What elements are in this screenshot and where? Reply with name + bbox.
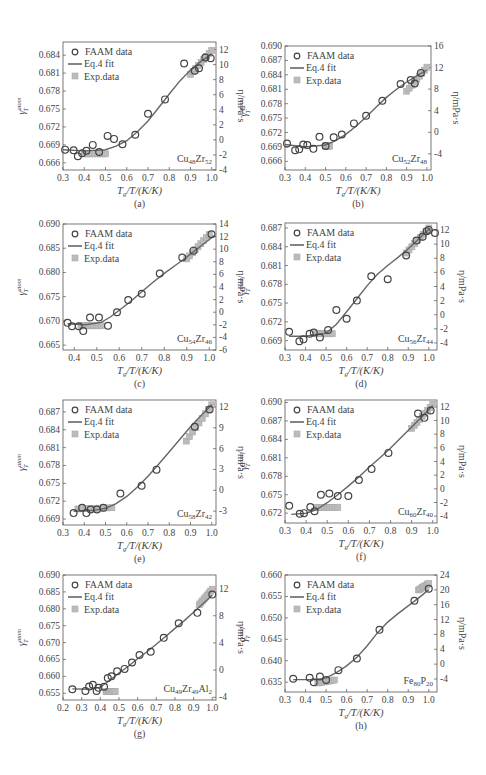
y2-tick-label: 12 xyxy=(219,584,229,594)
y2-tick-label: 12 xyxy=(219,232,229,242)
x-tick-label: 0.7 xyxy=(364,526,376,536)
legend-fit: Eq.4 fit xyxy=(84,240,114,251)
x-tick-label: 0.8 xyxy=(169,703,181,713)
y2-tick-label: -2 xyxy=(219,320,227,330)
y-tick-label: 0.680 xyxy=(39,604,61,614)
y-tick-label: 0.635 xyxy=(261,677,283,687)
y-tick-label: 0.660 xyxy=(39,671,61,681)
y-tick-label: 0.690 xyxy=(261,397,283,407)
y2-tick-label: -6 xyxy=(219,345,227,355)
y-tick-label: 0.672 xyxy=(39,496,61,506)
x-axis-label: Tg/T/(K/K) xyxy=(339,365,384,378)
x-tick-label: 1.0 xyxy=(206,528,218,538)
data-point xyxy=(300,336,307,343)
x-tick-label: 0.5 xyxy=(321,526,333,536)
y2-tick-label: 10 xyxy=(219,244,229,254)
data-point xyxy=(181,60,188,67)
panel-label: (b) xyxy=(352,198,364,210)
y-tick-label: 0.687 xyxy=(261,223,283,233)
y2-tick-label: 0 xyxy=(440,310,445,320)
y-tick-label: 0.655 xyxy=(261,591,283,601)
x-axis-label: Tg/T/(K/K) xyxy=(339,538,384,551)
data-point xyxy=(351,120,358,127)
y-tick-label: 0.681 xyxy=(261,84,283,94)
legend-faam: FAAM data xyxy=(307,404,355,415)
y-tick-label: 0.684 xyxy=(39,50,61,60)
x-tick-label: 0.6 xyxy=(121,173,133,183)
y-tick-label: 0.665 xyxy=(39,340,61,350)
y2-tick-label: 8 xyxy=(219,75,224,85)
y-tick-label: 0.678 xyxy=(39,460,61,470)
x-tick-label: 0.5 xyxy=(100,528,112,538)
y2-tick-label: 8 xyxy=(434,84,439,94)
data-point xyxy=(296,338,303,345)
y-tick-label: 0.665 xyxy=(39,654,61,664)
y2-tick-label: 0 xyxy=(434,127,439,137)
panel-f: 0.30.40.50.60.70.80.91.00.6720.6750.6780… xyxy=(237,397,468,563)
x-tick-label: 0.5 xyxy=(91,353,103,363)
x-tick-label: 0.6 xyxy=(342,526,354,536)
y2-tick-label: 12 xyxy=(440,615,450,625)
data-point xyxy=(194,609,201,616)
exp-data-series xyxy=(103,586,215,694)
alloy-label: Fe80P20 xyxy=(403,675,433,688)
data-point xyxy=(343,315,350,322)
y-tick-label: 0.669 xyxy=(261,142,283,152)
y-tick-label: 0.669 xyxy=(261,336,283,346)
x-tick-label: 0.4 xyxy=(78,528,90,538)
legend-exp: Exp.data xyxy=(84,71,120,82)
y-tick-label: 0.681 xyxy=(261,261,283,271)
x-tick-label: 0.7 xyxy=(361,353,373,363)
y2-tick-label: 12 xyxy=(219,45,229,55)
figure-canvas: 0.30.40.50.60.70.80.91.00.6660.6690.6720… xyxy=(0,0,486,775)
y-tick-label: 0.650 xyxy=(261,613,283,623)
y-axis-label: γatomT xyxy=(15,278,29,295)
y-tick-label: 0.687 xyxy=(261,55,283,65)
y2-tick-label: 4 xyxy=(219,105,224,115)
y-tick-label: 0.669 xyxy=(39,140,61,150)
y2-tick-label: 8 xyxy=(219,257,224,267)
y-tick-label: 0.680 xyxy=(39,267,61,277)
x-tick-label: 0.3 xyxy=(279,353,291,363)
x-tick-label: 0.9 xyxy=(185,528,197,538)
x-tick-label: 0.2 xyxy=(57,703,69,713)
x-tick-label: 0.3 xyxy=(279,173,291,183)
y2-tick-label: 20 xyxy=(440,585,450,595)
y-tick-label: 0.640 xyxy=(261,656,283,666)
x-tick-label: 0.3 xyxy=(279,695,291,705)
y-tick-label: 0.675 xyxy=(39,478,61,488)
legend-exp: Exp.data xyxy=(306,252,342,263)
legend: FAAM dataEq.4 fitExp.data xyxy=(290,50,355,86)
y2-tick-label: 0 xyxy=(219,485,224,495)
y2-tick-label: 12 xyxy=(440,225,450,235)
legend: FAAM dataEq.4 fitExp.data xyxy=(290,579,355,615)
y2-tick-label: 4 xyxy=(219,638,224,648)
x-tick-label: 1.0 xyxy=(203,353,215,363)
panel-label: (a) xyxy=(134,198,145,210)
y2-axis-label: η/mPa·s xyxy=(457,445,468,478)
legend: FAAM dataEq.4 fitExp.data xyxy=(290,227,355,263)
y2-tick-label: 8 xyxy=(440,629,445,639)
legend-exp: Exp.data xyxy=(306,75,342,86)
x-tick-label: 1.0 xyxy=(206,703,218,713)
x-tick-label: 0.9 xyxy=(188,703,200,713)
y2-tick-label: 4 xyxy=(434,106,439,116)
y-tick-label: 0.684 xyxy=(261,434,283,444)
x-tick-label: 0.4 xyxy=(299,173,311,183)
y2-tick-label: 24 xyxy=(440,570,450,580)
legend-fit: Eq.4 fit xyxy=(84,591,114,602)
x-tick-label: 0.9 xyxy=(402,695,414,705)
y2-tick-label: 16 xyxy=(434,41,444,51)
panel-label: (e) xyxy=(134,553,145,565)
y2-tick-label: 4 xyxy=(440,457,445,467)
alloy-label: Cu60Zr40 xyxy=(398,506,434,519)
x-tick-label: 0.5 xyxy=(320,173,332,183)
x-tick-label: 1.0 xyxy=(423,695,435,705)
x-tick-label: 0.6 xyxy=(341,353,353,363)
data-point xyxy=(333,307,340,314)
y2-tick-label: 0 xyxy=(219,307,224,317)
legend-fit: Eq.4 fit xyxy=(306,239,336,250)
y2-tick-label: -4 xyxy=(434,149,442,159)
data-point xyxy=(290,675,297,682)
x-tick-label: 0.6 xyxy=(132,703,144,713)
